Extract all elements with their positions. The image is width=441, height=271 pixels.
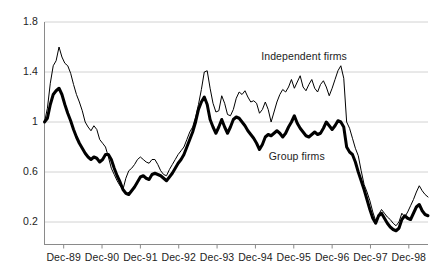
y-tick-label: 1 bbox=[12, 116, 38, 127]
plot-area bbox=[0, 0, 441, 271]
series-line-independent-firms bbox=[45, 47, 429, 226]
series-annotation-independent-firms: Independent firms bbox=[261, 50, 347, 62]
y-tick-label: 1.4 bbox=[12, 66, 38, 77]
series-line-group-firms bbox=[45, 88, 429, 231]
series-annotation-group-firms: Group firms bbox=[269, 150, 325, 162]
y-tick-label: 1.8 bbox=[12, 16, 38, 27]
y-tick-label: 0.2 bbox=[12, 216, 38, 227]
chart-figure: 0.20.611.41.8 Dec-89Dec-90Dec-91Dec-92De… bbox=[0, 0, 441, 271]
series-paths bbox=[45, 47, 429, 231]
x-tick-marks bbox=[64, 245, 409, 249]
x-tick-label: Dec-98 bbox=[386, 252, 432, 263]
gridlines bbox=[45, 22, 429, 222]
y-tick-label: 0.6 bbox=[12, 166, 38, 177]
